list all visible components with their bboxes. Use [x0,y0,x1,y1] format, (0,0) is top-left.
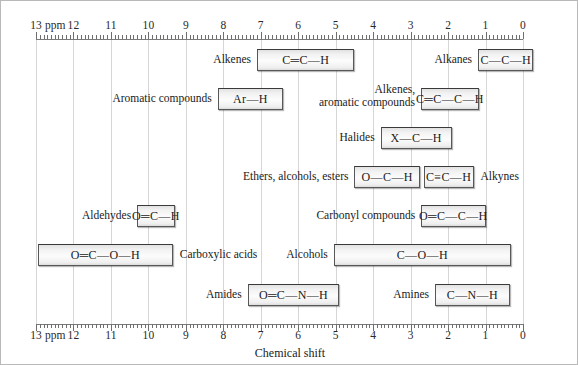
axis-ticklabel-top-3: 3 [408,19,414,31]
axis-tick-minor [137,324,138,328]
axis-tick-minor [160,324,161,328]
axis-tick-minor [182,35,183,39]
axis-tick-minor [512,324,513,328]
axis-tick-minor [321,35,322,39]
axis-tick-minor [167,324,168,328]
bar-label-line: Alkynes [481,171,519,183]
axis-tick-minor [133,324,134,328]
axis-tick-minor [126,35,127,39]
axis-top-rule [36,39,523,40]
axis-tick-minor [44,324,45,328]
axis-tick-minor [238,35,239,39]
axis-tick-minor [280,324,281,328]
axis-tick-major-4 [373,32,374,39]
axis-ticklabel-top-8: 8 [220,19,226,31]
axis-tick-minor [70,324,71,328]
axis-tick-minor [407,35,408,39]
axis-tick-minor [302,324,303,328]
axis-tick-minor [77,35,78,39]
axis-tick-minor [418,324,419,328]
axis-tick-minor [205,35,206,39]
axis-tick-minor [392,35,393,39]
bar-label-line: Aromatic compounds [112,93,211,105]
axis-tick-minor [351,35,352,39]
axis-tick-minor [504,324,505,328]
axis-tick-minor [512,35,513,39]
axis-tick-minor [422,324,423,328]
axis-tick-minor [508,324,509,328]
axis-ticklabel-top-4: 4 [370,19,376,31]
axis-tick-minor [516,324,517,328]
bar-aromatic-compounds: Ar—H [218,88,284,110]
gridline-0 [523,39,524,324]
axis-tick-minor [332,324,333,328]
axis-tick-minor [216,35,217,39]
axis-tick-minor [268,35,269,39]
axis-tick-minor [399,35,400,39]
plot-area: 131211109876543210ppm 131211109876543210… [1,1,578,365]
axis-tick-major-2 [448,32,449,39]
axis-tick-minor [328,324,329,328]
axis-tick-minor [294,35,295,39]
axis-tick-minor [519,324,520,328]
axis-tick-minor [96,35,97,39]
axis-tick-minor [392,324,393,328]
axis-tick-minor [175,35,176,39]
axis-tick-minor [182,324,183,328]
axis-tick-minor [309,35,310,39]
axis-tick-minor [103,324,104,328]
axis-tick-minor [231,35,232,39]
axis-tick-minor [265,35,266,39]
bar-label-alkanes: Alkanes [434,54,472,66]
axis-tick-minor [358,35,359,39]
axis-tick-minor [253,35,254,39]
axis-tick-minor [388,324,389,328]
gridline-12 [73,39,74,324]
axis-tick-minor [77,324,78,328]
bar-halides: X—C—H [381,127,452,149]
axis-tick-major-5 [336,32,337,39]
axis-tick-minor [366,324,367,328]
axis-tick-minor [235,35,236,39]
axis-tick-minor [197,35,198,39]
axis-tick-minor [291,324,292,328]
axis-tick-minor [497,35,498,39]
bar-formula-ethers-alcohols-esters: O—C—H [362,170,413,185]
axis-tick-major-10 [148,32,149,39]
axis-tick-minor [231,324,232,328]
axis-tick-minor [212,35,213,39]
axis-tick-minor [55,35,56,39]
axis-tick-minor [44,35,45,39]
axis-tick-minor [276,324,277,328]
axis-ticklabel-bottom-8: 8 [220,329,226,341]
axis-tick-minor [201,35,202,39]
bar-formula-aromatic-compounds: Ar—H [233,92,268,107]
axis-tick-minor [381,35,382,39]
axis-tick-minor [40,324,41,328]
gridline-11 [111,39,112,324]
axis-tick-minor [396,35,397,39]
axis-tick-minor [152,35,153,39]
axis-ticklabel-top-7: 7 [258,19,264,31]
axis-tick-minor [227,35,228,39]
axis-tick-minor [339,35,340,39]
bar-label-aldehydes: Aldehydes [82,210,131,222]
axis-unit-label-bottom: ppm [45,329,65,341]
axis-tick-minor [171,35,172,39]
axis-tick-minor [302,35,303,39]
axis-tick-minor [208,35,209,39]
axis-tick-minor [366,35,367,39]
axis-tick-minor [107,35,108,39]
axis-tick-minor [294,324,295,328]
axis-tick-minor [118,324,119,328]
axis-tick-minor [103,35,104,39]
axis-tick-minor [317,35,318,39]
axis-tick-minor [501,35,502,39]
axis-tick-minor [283,324,284,328]
chemical-shift-chart: 131211109876543210ppm 131211109876543210… [0,0,578,365]
axis-tick-major-12 [73,32,74,39]
axis-tick-minor [459,35,460,39]
axis-tick-minor [100,35,101,39]
axis-tick-minor [377,35,378,39]
axis-tick-minor [429,35,430,39]
